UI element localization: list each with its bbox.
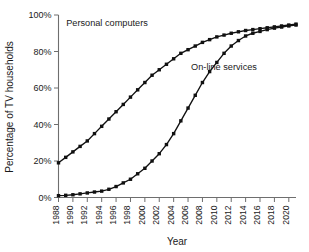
data-point-marker xyxy=(136,88,139,91)
y-tick-label: 80% xyxy=(33,47,51,57)
x-tick-label: 2004 xyxy=(166,205,176,224)
chart-container: 0%20%40%60%80%100% 198819901992199419961… xyxy=(0,0,309,252)
data-point-marker xyxy=(222,33,225,36)
data-point-marker xyxy=(71,150,74,153)
x-axis-title: Year xyxy=(167,236,188,247)
data-point-marker xyxy=(158,152,161,155)
y-tick-label: 40% xyxy=(33,120,51,130)
data-point-marker xyxy=(266,28,269,31)
data-point-marker xyxy=(122,103,125,106)
data-point-marker xyxy=(194,94,197,97)
series-on-line-services xyxy=(57,23,298,197)
x-tick-label: 2008 xyxy=(194,205,204,224)
data-point-marker xyxy=(179,52,182,55)
data-point-marker xyxy=(179,119,182,122)
data-point-marker xyxy=(165,63,168,66)
data-point-marker xyxy=(165,143,168,146)
data-point-marker xyxy=(57,161,60,164)
data-point-marker xyxy=(237,30,240,33)
data-point-marker xyxy=(208,38,211,41)
x-tick-label: 1992 xyxy=(79,205,89,224)
x-tick-labels: 1988199019921994199619982000200220042006… xyxy=(51,205,291,224)
x-tick-label: 2012 xyxy=(223,205,233,224)
x-tick-label: 2002 xyxy=(151,205,161,224)
series-line xyxy=(59,25,297,196)
x-tick-label: 2010 xyxy=(209,205,219,224)
x-tick-label: 2016 xyxy=(252,205,262,224)
x-tick-label: 2018 xyxy=(266,205,276,224)
data-point-marker xyxy=(86,139,89,142)
series-label-on-line-services: On-line services xyxy=(191,62,257,72)
data-point-marker xyxy=(280,25,283,28)
data-point-marker xyxy=(143,81,146,84)
data-point-marker xyxy=(64,194,67,197)
data-point-marker xyxy=(64,156,67,159)
data-point-marker xyxy=(57,194,60,197)
x-tick-label: 1988 xyxy=(51,205,61,224)
data-point-marker xyxy=(93,190,96,193)
data-point-marker xyxy=(237,39,240,42)
data-point-marker xyxy=(215,35,218,38)
series-label-personal-computers: Personal computers xyxy=(66,18,148,28)
data-point-marker xyxy=(143,167,146,170)
line-chart: 0%20%40%60%80%100% 198819901992199419961… xyxy=(0,0,309,252)
data-point-marker xyxy=(186,48,189,51)
data-point-marker xyxy=(287,24,290,27)
data-point-marker xyxy=(122,181,125,184)
x-tick-label: 1990 xyxy=(65,205,75,224)
data-point-marker xyxy=(244,29,247,32)
data-point-marker xyxy=(230,44,233,47)
data-point-marker xyxy=(222,52,225,55)
x-tick-marks xyxy=(59,198,289,203)
data-point-marker xyxy=(258,30,261,33)
data-point-marker xyxy=(107,117,110,120)
data-series-layer xyxy=(57,22,298,197)
series-annotations: Personal computersOn-line services xyxy=(66,18,257,72)
series-line xyxy=(59,24,297,163)
data-point-marker xyxy=(136,172,139,175)
y-tick-marks xyxy=(54,15,59,198)
data-point-marker xyxy=(150,74,153,77)
data-point-marker xyxy=(78,145,81,148)
data-point-marker xyxy=(71,193,74,196)
data-point-marker xyxy=(100,125,103,128)
data-point-marker xyxy=(201,41,204,44)
data-point-marker xyxy=(273,26,276,29)
x-tick-label: 1998 xyxy=(122,205,132,224)
data-point-marker xyxy=(172,57,175,60)
data-point-marker xyxy=(230,32,233,35)
x-tick-label: 2020 xyxy=(281,205,291,224)
y-tick-label: 60% xyxy=(33,83,51,93)
data-point-marker xyxy=(93,132,96,135)
x-tick-label: 2014 xyxy=(238,205,248,224)
data-point-marker xyxy=(244,34,247,37)
data-point-marker xyxy=(150,159,153,162)
data-point-marker xyxy=(129,178,132,181)
data-point-marker xyxy=(86,191,89,194)
y-tick-label: 100% xyxy=(28,10,51,20)
y-tick-label: 0% xyxy=(38,193,51,203)
data-point-marker xyxy=(172,132,175,135)
data-point-marker xyxy=(114,185,117,188)
x-tick-label: 2000 xyxy=(137,205,147,224)
data-point-marker xyxy=(100,189,103,192)
y-tick-label: 20% xyxy=(33,156,51,166)
data-point-marker xyxy=(158,68,161,71)
data-point-marker xyxy=(194,44,197,47)
series-personal-computers xyxy=(57,22,298,164)
data-point-marker xyxy=(251,32,254,35)
x-tick-label: 1996 xyxy=(108,205,118,224)
data-point-marker xyxy=(251,28,254,31)
data-point-marker xyxy=(78,192,81,195)
y-tick-labels: 0%20%40%60%80%100% xyxy=(28,10,51,203)
data-point-marker xyxy=(294,23,297,26)
x-tick-label: 2006 xyxy=(180,205,190,224)
data-point-marker xyxy=(107,188,110,191)
data-point-marker xyxy=(129,95,132,98)
data-point-marker xyxy=(201,81,204,84)
data-point-marker xyxy=(114,110,117,113)
y-axis-title: Percentage of TV households xyxy=(4,41,15,173)
x-tick-label: 1994 xyxy=(94,205,104,224)
data-point-marker xyxy=(186,106,189,109)
